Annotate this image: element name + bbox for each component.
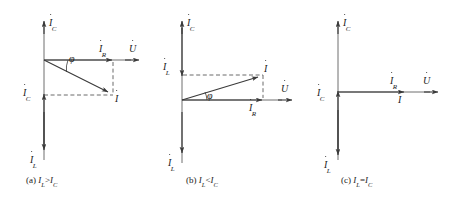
phasor-diagram-figure: IC IC IL IR U I φ (a) IL>IC IC IL IL IR … (0, 0, 461, 197)
panel-a-label-i-total: I (115, 94, 118, 104)
panel-c-caption: (c) IL=IC (341, 176, 372, 187)
panel-a-label-u: U (129, 44, 136, 54)
panel-b-label-i-total: I (264, 64, 267, 74)
panel-c-label-ic-left: IC (317, 88, 325, 101)
panel-b-label-u: U (281, 84, 288, 94)
panel-a-label-ic-left: IC (23, 88, 31, 101)
panel-c-label-il-bottom: IL (324, 160, 331, 173)
panel-a-label-ir: IR (99, 44, 107, 57)
panel-c-label-ir: IR (390, 76, 398, 89)
panel-b-phi-symbol: φ (207, 90, 213, 101)
panel-a-i-phasor (44, 60, 108, 92)
panel-b-label-il-bottom: IL (168, 158, 175, 171)
phasor-diagram-svg (0, 0, 461, 197)
panel-a-label-ic-top: IC (49, 18, 57, 31)
panel-a-graphics (44, 21, 139, 160)
panel-c-graphics (338, 21, 438, 160)
panel-a-caption: (a) IL>IC (26, 176, 57, 187)
panel-b-caption: (b) IL<IC (186, 176, 218, 187)
panel-a-phi-symbol: φ (69, 53, 75, 64)
panel-b-label-il-left: IL (163, 62, 170, 75)
panel-c-label-u: U (423, 76, 430, 86)
panel-a-phi-arc (66, 60, 68, 72)
panel-b-label-ic-top: IC (187, 18, 195, 31)
panel-b-graphics (182, 21, 292, 163)
panel-c-label-ic-top: IC (343, 18, 351, 31)
panel-b-label-ir: IR (249, 103, 257, 116)
panel-a-label-il-bottom: IL (30, 155, 37, 168)
panel-c-label-i-total: I (398, 95, 401, 105)
panel-b-i-phasor (182, 77, 258, 100)
